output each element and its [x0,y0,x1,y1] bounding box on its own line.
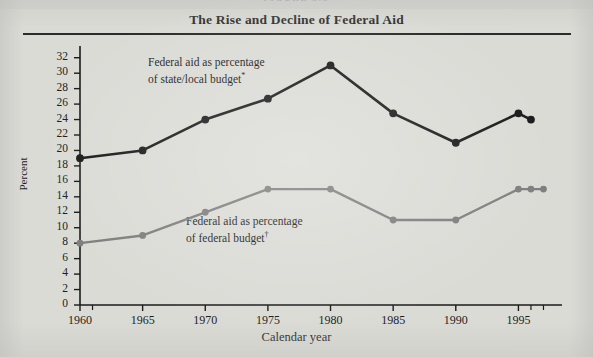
data-point-state-local-1960 [76,154,84,162]
chart-series [76,62,547,247]
data-point-federal-1990 [452,217,459,224]
data-point-federal-1970 [202,209,209,216]
chart-canvas [0,0,593,357]
data-point-state-local-1975 [264,95,272,103]
data-point-federal-1996 [528,186,535,193]
chart-plot-area: Percent Calendar year 024681012141618202… [0,0,593,357]
data-point-state-local-1990 [452,139,460,147]
data-point-state-local-1980 [327,62,335,70]
data-point-federal-1975 [264,186,271,193]
data-point-state-local-1996 [527,116,535,124]
series-line-state-local [80,65,531,158]
chart-axes [74,46,562,311]
data-point-federal-1985 [390,217,397,224]
data-point-state-local-1995 [515,109,523,117]
data-point-federal-1965 [139,232,146,239]
data-point-federal-1960 [77,240,84,247]
data-point-federal-1980 [327,186,334,193]
series-line-federal [80,189,543,243]
data-point-state-local-1970 [201,116,209,124]
figure-page: FIGURE 3.3 The Rise and Decline of Feder… [0,0,593,357]
data-point-federal-1997 [540,186,547,193]
data-point-federal-1995 [515,186,522,193]
data-point-state-local-1985 [389,109,397,117]
data-point-state-local-1965 [139,147,147,155]
